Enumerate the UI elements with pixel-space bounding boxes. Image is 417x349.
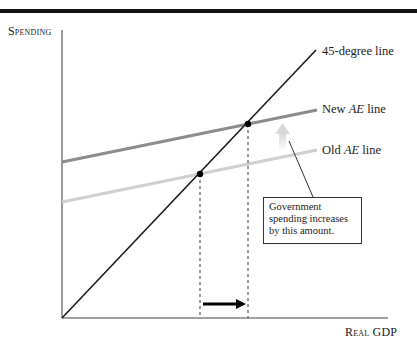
old-equilibrium-point <box>197 171 203 177</box>
x-axis-label: Real GDP <box>345 325 397 340</box>
gdp-increase-arrow-icon <box>203 299 246 309</box>
new-equilibrium-point <box>245 121 251 127</box>
old-ae-line <box>62 150 317 202</box>
new-ae-label: New AE line <box>322 102 386 117</box>
new-ae-line <box>62 110 317 162</box>
forty-five-degree-label: 45-degree line <box>322 44 394 59</box>
old-ae-label: Old AE line <box>322 143 381 158</box>
y-axis-label: Spending <box>8 24 51 39</box>
callout-leader-line <box>289 141 313 197</box>
forty-five-degree-line <box>62 50 316 318</box>
government-spending-callout: Government spending increases by this am… <box>263 197 362 244</box>
upward-shift-arrow-icon <box>275 123 290 151</box>
